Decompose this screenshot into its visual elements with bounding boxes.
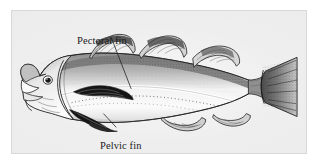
annotation-label-pelvic-fin: Pelvic fin: [100, 140, 142, 151]
figure-root: Pectoral fin Pelvic fin: [0, 0, 320, 165]
illustration-plate: Pectoral fin Pelvic fin: [11, 10, 307, 154]
cod-illustration: [12, 11, 306, 153]
annotation-label-pectoral-fin: Pectoral fin: [77, 35, 127, 46]
caudal-region: [248, 54, 300, 119]
pupil: [45, 78, 50, 83]
